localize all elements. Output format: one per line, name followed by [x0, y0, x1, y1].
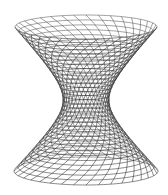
grid-line	[15, 15, 157, 27]
hyperboloid-figure	[0, 0, 168, 195]
hyperboloid-wireframe	[0, 0, 168, 195]
grid-line	[22, 25, 149, 36]
